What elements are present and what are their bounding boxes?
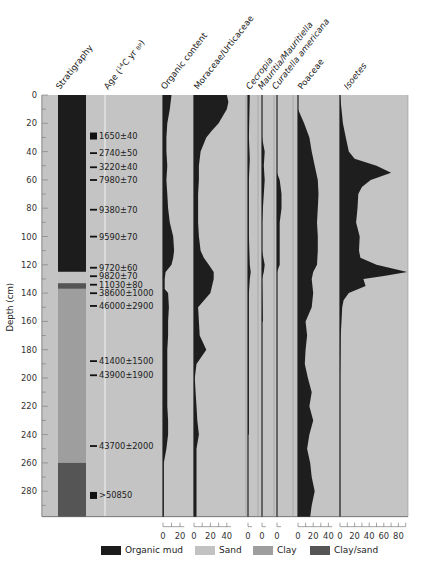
- x-tick-label: 0: [160, 531, 165, 540]
- pollen-diagram: StratigraphyAge (14C yr BP)Organic conte…: [0, 0, 428, 540]
- column-headers: StratigraphyAge (14C yr BP)Organic conte…: [54, 13, 369, 91]
- x-tick-label: 80: [393, 531, 404, 540]
- y-tick-label: 160: [21, 316, 37, 326]
- y-tick-label: 280: [21, 486, 37, 496]
- legend-item: Clay: [253, 545, 297, 555]
- age-label: 43700±2000: [99, 441, 153, 451]
- legend-label: Organic mud: [125, 545, 183, 555]
- x-tick-label: 0: [295, 531, 300, 540]
- age-label: 9590±70: [99, 232, 138, 242]
- column-header: Isoetes: [342, 60, 369, 91]
- column-header: Moraceae/Urticaceae: [192, 13, 256, 91]
- x-tick-label: 40: [221, 531, 232, 540]
- age-label: 9380±70: [99, 205, 138, 215]
- x-tick-label: 0: [245, 531, 250, 540]
- y-tick-label: 40: [26, 147, 37, 157]
- x-tick-label: 0: [259, 531, 264, 540]
- x-tick-label: 20: [205, 531, 216, 540]
- strat-layer: [58, 283, 86, 289]
- legend-swatch: [101, 546, 121, 555]
- x-tick-label: 60: [378, 531, 389, 540]
- y-tick-label: 0: [32, 90, 37, 100]
- x-tick-label: 20: [308, 531, 319, 540]
- legend-label: Sand: [219, 545, 242, 555]
- age-label: 46000±2900: [99, 301, 153, 311]
- y-tick-label: 60: [26, 175, 37, 185]
- strat-layer: [58, 272, 86, 283]
- age-label: 7980±70: [99, 175, 138, 185]
- x-tick-label: 40: [364, 531, 375, 540]
- y-tick-label: 220: [21, 401, 37, 411]
- legend-swatch: [310, 546, 330, 555]
- legend-label: Clay/sand: [334, 545, 378, 555]
- age-label: 41400±1500: [99, 356, 153, 366]
- x-tick-label: 20: [175, 531, 186, 540]
- age-label: >50850: [99, 490, 132, 500]
- stratigraphy-column: [58, 95, 86, 517]
- y-axis-label: Depth (cm): [5, 283, 15, 332]
- x-axes: 0200204000002040020406080: [160, 523, 405, 540]
- age-label: 43900±1900: [99, 370, 153, 380]
- age-label: 38600±1000: [99, 288, 153, 298]
- y-tick-label: 240: [21, 430, 37, 440]
- y-tick-label: 180: [21, 345, 37, 355]
- y-tick-label: 80: [26, 203, 37, 213]
- x-tick-label: 0: [337, 531, 342, 540]
- y-tick-label: 260: [21, 458, 37, 468]
- y-tick-label: 120: [21, 260, 37, 270]
- legend-item: Sand: [195, 545, 242, 555]
- legend: Organic mudSandClayClay/sand: [0, 545, 428, 565]
- strat-layer: [58, 289, 86, 463]
- x-tick-label: 0: [274, 531, 279, 540]
- legend-item: Clay/sand: [310, 545, 378, 555]
- age-label: 3220±40: [99, 162, 138, 172]
- x-tick-label: 0: [191, 531, 196, 540]
- legend-item: Organic mud: [101, 545, 183, 555]
- age-label: 1650±40: [99, 131, 138, 141]
- legend-label: Clay: [277, 545, 297, 555]
- strat-layer: [58, 463, 86, 517]
- y-tick-label: 200: [21, 373, 37, 383]
- x-tick-label: 40: [323, 531, 334, 540]
- y-tick-label: 140: [21, 288, 37, 298]
- age-label: 2740±50: [99, 148, 138, 158]
- y-tick-label: 20: [26, 118, 37, 128]
- legend-swatch: [253, 546, 273, 555]
- column-header: Stratigraphy: [54, 43, 95, 91]
- x-tick-label: 20: [349, 531, 360, 540]
- legend-swatch: [195, 546, 215, 555]
- strat-layer: [58, 95, 86, 272]
- y-tick-label: 100: [21, 232, 37, 242]
- column-header: Age (14C yr BP): [102, 38, 147, 92]
